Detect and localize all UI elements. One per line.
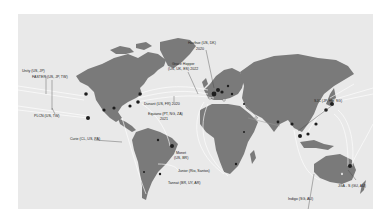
cable-label-grace-hopper: Grace Hopper — [172, 62, 195, 66]
europe — [204, 68, 244, 100]
cable-label-equiano-year: 2021 — [160, 117, 168, 121]
cable-label-tannat: Tannat (BR, UY, AR) — [168, 181, 201, 185]
cable-label-havfrue: Havfrue (US, DK) — [188, 41, 216, 45]
british-isles — [202, 78, 208, 88]
indonesia — [300, 140, 334, 150]
cable-label-plcn: PLCN (US, TW) — [34, 114, 60, 118]
cable-label-equiano: Equiano (PT, NG, ZA) — [148, 112, 183, 116]
australia — [314, 154, 356, 184]
cable-label-curie: Curie (CL, US, PA) — [70, 137, 100, 141]
cable-label-monet: Monet — [176, 151, 186, 155]
cable-label-faster: FASTER (US, JP, TW) — [32, 75, 68, 79]
cable-label-dunant: Dunant (US, FR) 2020 — [144, 102, 180, 106]
africa — [200, 104, 258, 174]
arctic-islands — [110, 42, 152, 54]
cable-label-monet-countries: (US, BR) — [174, 156, 188, 160]
south-america — [132, 128, 178, 200]
cable-label-indigo: Indigo (SG, AU) — [288, 197, 313, 201]
cable-label-sjc: SJC (JP, HK, SG) — [314, 99, 342, 103]
cable-label-unity: Unity (US, JP) — [22, 69, 45, 73]
world-cable-map: Unity (US, JP) FASTER (US, JP, TW) PLCN … — [18, 14, 373, 209]
cable-label-havfrue-year: 2020 — [196, 47, 204, 51]
cable-label-junior: Junior (Rio, Santos) — [178, 169, 210, 173]
madagascar — [250, 150, 256, 164]
cable-label-grace-hopper-countries: (US, UK, ES) 2022 — [168, 67, 198, 71]
cable-label-jga-s: JGA - S (GU, AU) — [338, 184, 366, 188]
central-america — [118, 118, 136, 132]
